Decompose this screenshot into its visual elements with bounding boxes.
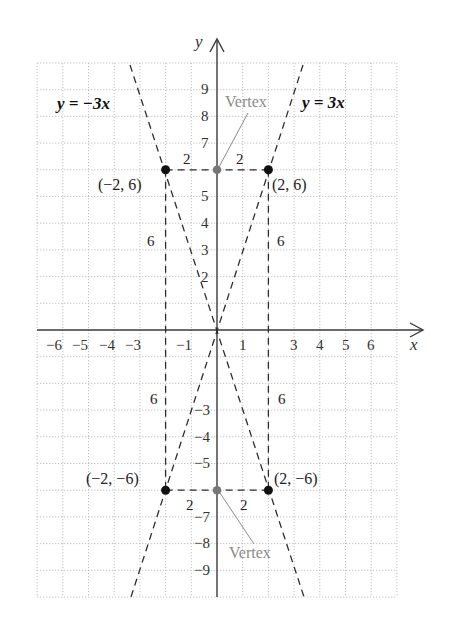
y-tick: −3 [194, 402, 210, 418]
x-tick: −5 [72, 337, 88, 353]
y-tick: −8 [194, 535, 210, 551]
y-tick: 4 [201, 215, 209, 231]
point-neg2-neg6 [161, 486, 170, 495]
y-tick: −9 [194, 562, 210, 578]
x-axis [37, 323, 423, 337]
y-tick: 7 [201, 135, 209, 151]
distance-label: 6 [150, 391, 158, 407]
x-tick: −6 [46, 337, 62, 353]
x-tick: 4 [316, 337, 324, 353]
x-tick: 1 [239, 337, 247, 353]
distance-label: 2 [240, 497, 248, 513]
point-label: (2, −6) [274, 470, 318, 488]
distance-label: 6 [278, 391, 286, 407]
vertex-label-bottom: Vertex [229, 544, 271, 561]
point-label: (−2, −6) [86, 470, 139, 488]
equation-label-3x: y = 3x [300, 93, 345, 112]
x-axis-name: x [409, 335, 418, 354]
vertex-leader-top [219, 113, 248, 167]
distance-label: 2 [186, 497, 194, 513]
point-label: (−2, 6) [98, 176, 142, 194]
point-neg2-6 [161, 165, 170, 174]
x-tick: −1 [176, 337, 192, 353]
point-2-neg6 [264, 486, 273, 495]
coordinate-plane: y x −6 −5 −4 −3 −1 1 3 4 5 6 2 3 4 5 7 8… [0, 0, 450, 634]
y-tick: 8 [201, 108, 209, 124]
y-axis-name: y [193, 32, 203, 51]
y-tick: −4 [194, 429, 210, 445]
distance-label: 2 [183, 151, 191, 167]
vertex-leader-bottom [220, 493, 254, 544]
point-label: (2, 6) [272, 176, 307, 194]
distance-label: 2 [236, 151, 244, 167]
y-tick: 2 [201, 269, 209, 285]
vertex-point-bottom [213, 486, 222, 495]
y-tick: 5 [201, 188, 209, 204]
point-2-6 [264, 165, 273, 174]
x-tick: −3 [125, 337, 141, 353]
x-tick: 3 [290, 337, 298, 353]
y-tick: −7 [194, 509, 210, 525]
distance-label: 6 [147, 233, 155, 249]
distance-label: 6 [277, 233, 285, 249]
x-tick: −4 [99, 337, 115, 353]
vertex-point-top [213, 166, 222, 175]
x-tick: 5 [342, 337, 350, 353]
vertex-label-top: Vertex [225, 93, 267, 110]
y-tick: 9 [201, 81, 209, 97]
y-tick-labels-positive: 2 3 4 5 7 8 9 [201, 81, 209, 285]
equation-label-neg3x: y = −3x [55, 94, 111, 113]
y-tick: −5 [194, 455, 210, 471]
y-tick: 3 [201, 242, 209, 258]
x-tick: 6 [367, 337, 375, 353]
